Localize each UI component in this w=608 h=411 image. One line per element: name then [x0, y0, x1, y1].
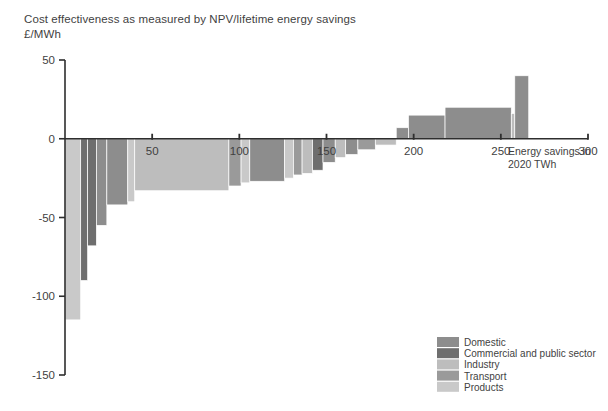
legend-swatch-4 [437, 382, 459, 392]
bar-12 [302, 139, 312, 174]
x-axis-annotation-line1: Energy savings in [508, 145, 591, 157]
legend-label-1: Commercial and public sector [464, 348, 596, 359]
bar-2 [88, 139, 97, 246]
legend-label-4: Products [464, 382, 503, 393]
bar-15 [335, 139, 345, 158]
bar-5 [128, 139, 135, 202]
legend-swatch-3 [437, 371, 459, 381]
y-tick-label: -150 [32, 369, 55, 381]
legend-label-0: Domestic [464, 337, 506, 348]
bar-19 [396, 128, 408, 139]
x-axis-annotation: Energy savings in2020 TWh [508, 145, 591, 170]
bars-layer [65, 76, 529, 320]
x-tick-label: 100 [230, 145, 249, 157]
bar-4 [107, 139, 128, 205]
legend-label-3: Transport [464, 371, 507, 382]
axis-tick-labels: 500-50-100-15050100150200250300 [32, 54, 598, 381]
chart-root: Cost effectiveness as measured by NPV/li… [0, 0, 608, 411]
bar-9 [250, 139, 285, 182]
y-tick-label: -100 [32, 290, 55, 302]
y-tick-label: 50 [42, 54, 55, 66]
chart-legend: DomesticCommercial and public sectorIndu… [437, 337, 596, 393]
bar-18 [375, 139, 396, 145]
legend-swatch-2 [437, 359, 459, 369]
chart-canvas: 500-50-100-15050100150200250300 Domestic… [0, 0, 608, 411]
x-tick-label: 200 [404, 145, 423, 157]
bar-3 [96, 139, 106, 226]
bar-0 [65, 139, 81, 320]
bar-1 [81, 139, 88, 281]
x-axis-annotation-line2: 2020 TWh [508, 158, 556, 170]
bar-22 [511, 114, 514, 139]
legend-label-2: Industry [464, 359, 500, 370]
bar-17 [358, 139, 375, 150]
legend-swatch-1 [437, 348, 459, 358]
x-tick-label: 50 [146, 145, 159, 157]
legend-swatch-0 [437, 337, 459, 347]
x-tick-label: 150 [317, 145, 336, 157]
bar-23 [515, 76, 529, 139]
y-tick-label: 0 [49, 133, 55, 145]
bar-11 [293, 139, 302, 175]
bar-16 [346, 139, 358, 155]
y-tick-label: -50 [38, 212, 55, 224]
bar-10 [285, 139, 294, 178]
